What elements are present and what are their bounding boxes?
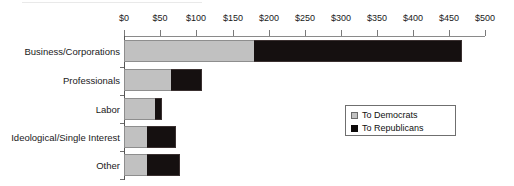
x-tick-label-7: $350 bbox=[367, 13, 387, 23]
y-axis-label-business: Business/Corporations bbox=[0, 46, 120, 58]
x-tick-6 bbox=[341, 30, 342, 36]
bar-other-republicans bbox=[147, 154, 180, 176]
bar-other-democrats bbox=[124, 154, 147, 176]
x-tick-10 bbox=[485, 30, 486, 36]
y-tick-3 bbox=[120, 151, 124, 152]
x-tick-label-4: $200 bbox=[259, 13, 279, 23]
x-tick-label-10: $500 bbox=[475, 13, 495, 23]
legend-label-democrats: To Democrats bbox=[362, 110, 418, 120]
y-axis-label-labor: Labor bbox=[0, 104, 120, 116]
category-label: Labor bbox=[4, 104, 120, 115]
legend-item-democrats: To Democrats bbox=[351, 109, 450, 121]
y-axis-label-professionals: Professionals bbox=[0, 75, 120, 87]
x-tick-label-0: $0 bbox=[119, 13, 129, 23]
top-divider bbox=[22, 2, 202, 3]
x-tick-8 bbox=[413, 30, 414, 36]
bar-ideological-republicans bbox=[147, 126, 176, 148]
x-tick-9 bbox=[449, 30, 450, 36]
legend-swatch-democrats-icon bbox=[351, 112, 358, 119]
legend-swatch-republicans-icon bbox=[351, 125, 358, 132]
y-tick-0 bbox=[120, 67, 124, 68]
x-tick-3 bbox=[233, 30, 234, 36]
bar-professionals-republicans bbox=[171, 69, 202, 91]
x-tick-label-5: $250 bbox=[295, 13, 315, 23]
bar-chart: $0 $50 $100 $150 $200 $250 $300 $350 $40… bbox=[0, 0, 514, 186]
bar-ideological-democrats bbox=[124, 126, 147, 148]
category-label: Ideological/Single Interest bbox=[4, 132, 120, 143]
bar-labor-republicans bbox=[155, 98, 162, 120]
y-tick-4 bbox=[120, 179, 124, 180]
x-tick-4 bbox=[269, 30, 270, 36]
bar-professionals-democrats bbox=[124, 69, 171, 91]
x-tick-2 bbox=[196, 30, 197, 36]
legend-label-republicans: To Republicans bbox=[362, 123, 424, 133]
x-tick-label-2: $100 bbox=[186, 13, 206, 23]
x-tick-label-9: $450 bbox=[439, 13, 459, 23]
legend-item-republicans: To Republicans bbox=[351, 122, 450, 134]
x-tick-label-6: $300 bbox=[331, 13, 351, 23]
x-tick-7 bbox=[377, 30, 378, 36]
y-axis-label-other: Other bbox=[0, 160, 120, 172]
category-label: Other bbox=[4, 160, 120, 171]
y-tick-1 bbox=[120, 95, 124, 96]
x-tick-label-1: $50 bbox=[152, 13, 167, 23]
chart-legend: To Democrats To Republicans bbox=[345, 105, 456, 136]
x-tick-0 bbox=[124, 30, 125, 36]
bar-business-democrats bbox=[124, 40, 254, 62]
category-label: Professionals bbox=[4, 75, 120, 86]
bar-business-republicans bbox=[254, 40, 462, 62]
category-label: Business/Corporations bbox=[4, 46, 120, 57]
x-tick-label-3: $150 bbox=[223, 13, 243, 23]
x-tick-1 bbox=[160, 30, 161, 36]
x-tick-label-8: $400 bbox=[403, 13, 423, 23]
bar-labor-democrats bbox=[124, 98, 155, 120]
y-tick-2 bbox=[120, 123, 124, 124]
x-tick-5 bbox=[305, 30, 306, 36]
x-axis-line bbox=[124, 36, 485, 37]
y-axis-label-ideological: Ideological/Single Interest bbox=[0, 132, 120, 144]
